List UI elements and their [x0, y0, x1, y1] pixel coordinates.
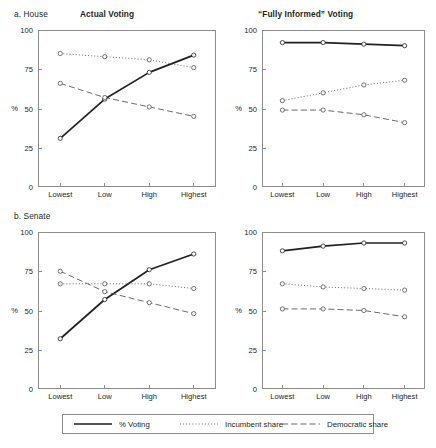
- chart-legend: % VotingIncumbent shareDemocratic share: [62, 414, 374, 434]
- series-line: [282, 243, 404, 251]
- data-point-marker: [192, 114, 196, 118]
- legend-label: Incumbent share: [225, 420, 283, 429]
- legend-label: % Voting: [119, 420, 150, 429]
- y-tick-label: 0: [231, 183, 257, 192]
- data-point-marker: [58, 269, 62, 273]
- row-label-senate: b. Senate: [14, 211, 50, 221]
- series-line: [60, 54, 194, 68]
- x-tick-label: Highest: [392, 190, 418, 199]
- data-point-marker: [280, 282, 284, 286]
- panel-house-actual: 0255075100%LowestLowHighHighest: [38, 30, 216, 187]
- data-point-marker: [147, 58, 151, 62]
- y-axis-label: %: [235, 104, 242, 113]
- legend-item-incumbent-share: Incumbent share: [179, 419, 283, 429]
- data-point-marker: [403, 315, 407, 319]
- data-point-marker: [403, 288, 407, 292]
- data-point-marker: [103, 282, 107, 286]
- data-point-marker: [280, 249, 284, 253]
- row-label-house: a. House: [14, 9, 48, 19]
- data-point-marker: [58, 282, 62, 286]
- legend-swatch-dotted: [179, 419, 219, 429]
- x-tick-label: High: [141, 392, 157, 401]
- data-point-marker: [362, 286, 366, 290]
- y-axis-label: %: [11, 306, 18, 315]
- y-tick-label: 0: [7, 183, 33, 192]
- series-voting: [280, 40, 406, 47]
- data-point-marker: [403, 121, 407, 125]
- data-point-marker: [58, 51, 62, 55]
- series-line: [60, 83, 194, 116]
- series-incumbent-share: [280, 78, 406, 103]
- data-point-marker: [147, 301, 151, 305]
- data-point-marker: [403, 241, 407, 245]
- data-point-marker: [362, 308, 366, 312]
- data-point-marker: [280, 307, 284, 311]
- series-layer-b-senate-actual: [38, 232, 216, 389]
- data-point-marker: [58, 136, 62, 140]
- data-point-marker: [280, 99, 284, 103]
- series-voting: [58, 53, 196, 140]
- data-point-marker: [403, 78, 407, 82]
- data-point-marker: [192, 53, 196, 57]
- series-democratic-share: [280, 307, 406, 319]
- panel-house-fully-informed: 0255075100%LowestLowHighHighest: [262, 30, 425, 187]
- x-tick-label: High: [141, 190, 157, 199]
- x-tick-label: Highest: [392, 392, 418, 401]
- series-layer-a-house-fully-informed: [262, 30, 425, 187]
- y-axis-label: %: [11, 104, 18, 113]
- series-voting: [280, 241, 406, 253]
- x-tick-label: Lowest: [48, 392, 72, 401]
- data-point-marker: [280, 108, 284, 112]
- y-tick-label: 25: [231, 143, 257, 152]
- data-point-marker: [103, 290, 107, 294]
- data-point-marker: [147, 282, 151, 286]
- data-point-marker: [103, 55, 107, 59]
- series-layer-b-senate-fully-informed: [262, 232, 425, 389]
- x-tick-label: Highest: [181, 392, 207, 401]
- data-point-marker: [192, 66, 196, 70]
- data-point-marker: [147, 268, 151, 272]
- series-democratic-share: [58, 81, 196, 118]
- legend-item-democratic-share: Democratic share: [281, 419, 388, 429]
- series-democratic-share: [280, 108, 406, 125]
- legend-item-voting: % Voting: [73, 419, 150, 429]
- data-point-marker: [362, 83, 366, 87]
- series-voting: [58, 252, 196, 341]
- x-tick-label: Low: [316, 392, 330, 401]
- legend-label: Democratic share: [327, 420, 388, 429]
- y-tick-label: 75: [7, 267, 33, 276]
- series-line: [282, 284, 404, 290]
- series-democratic-share: [58, 269, 196, 316]
- series-incumbent-share: [58, 51, 196, 69]
- data-point-marker: [192, 312, 196, 316]
- y-tick-label: 75: [7, 65, 33, 74]
- legend-swatch-dashed: [281, 419, 321, 429]
- series-incumbent-share: [58, 282, 196, 291]
- x-tick-label: Lowest: [270, 190, 294, 199]
- data-point-marker: [147, 105, 151, 109]
- y-tick-label: 25: [231, 345, 257, 354]
- panel-senate-actual: 0255075100%LowestLowHighHighest: [38, 232, 216, 389]
- column-title-actual-voting-top: Actual Voting: [80, 9, 134, 19]
- data-point-marker: [321, 307, 325, 311]
- data-point-marker: [280, 40, 284, 44]
- data-point-marker: [321, 40, 325, 44]
- data-point-marker: [321, 244, 325, 248]
- data-point-marker: [321, 285, 325, 289]
- data-point-marker: [147, 70, 151, 74]
- series-line: [282, 309, 404, 317]
- x-tick-label: High: [356, 392, 372, 401]
- y-tick-label: 100: [7, 228, 33, 237]
- series-line: [60, 55, 194, 138]
- data-point-marker: [362, 113, 366, 117]
- series-line: [282, 43, 404, 46]
- y-tick-label: 100: [7, 26, 33, 35]
- x-tick-label: Lowest: [270, 392, 294, 401]
- y-tick-label: 100: [231, 228, 257, 237]
- data-point-marker: [192, 252, 196, 256]
- y-tick-label: 0: [231, 385, 257, 394]
- series-layer-a-house-actual: [38, 30, 216, 187]
- figure-root: a. House Actual Voting “Fully Informed” …: [0, 0, 436, 448]
- x-tick-label: Low: [98, 392, 112, 401]
- y-tick-label: 25: [7, 345, 33, 354]
